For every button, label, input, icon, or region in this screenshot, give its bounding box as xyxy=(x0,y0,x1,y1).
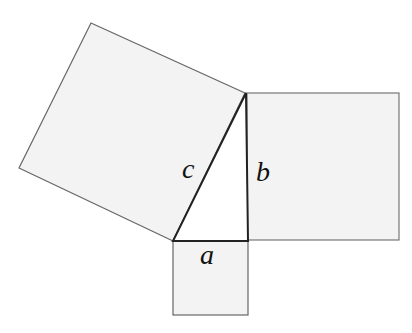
label-a: a xyxy=(200,239,214,270)
pythagorean-diagram: c b a xyxy=(0,0,412,333)
label-c: c xyxy=(182,153,195,184)
label-b: b xyxy=(256,156,270,187)
